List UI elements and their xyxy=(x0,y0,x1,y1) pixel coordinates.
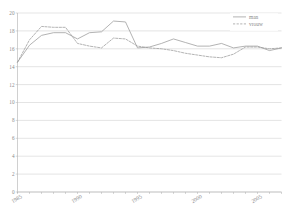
chart-canvas: 02468101214161820 19851990199520002005 m… xyxy=(0,0,286,218)
y-tick-label: 20 xyxy=(9,10,15,16)
y-tick-label: 14 xyxy=(9,64,15,70)
legend-label-vrouw: vrouw xyxy=(249,21,263,27)
y-tick-label: 16 xyxy=(9,46,15,52)
y-tick-label: 4 xyxy=(12,153,15,159)
y-tick-label: 12 xyxy=(9,82,15,88)
legend-label-man: man xyxy=(249,14,259,20)
chart-background xyxy=(0,0,286,218)
line-chart: 02468101214161820 19851990199520002005 m… xyxy=(0,0,286,218)
y-tick-label: 8 xyxy=(12,117,15,123)
y-tick-label: 0 xyxy=(12,189,15,195)
y-tick-label: 2 xyxy=(12,171,15,177)
y-tick-label: 18 xyxy=(9,28,15,34)
y-tick-label: 6 xyxy=(12,135,15,141)
chart-legend: manvrouw xyxy=(230,13,278,31)
y-tick-label: 10 xyxy=(9,99,15,105)
